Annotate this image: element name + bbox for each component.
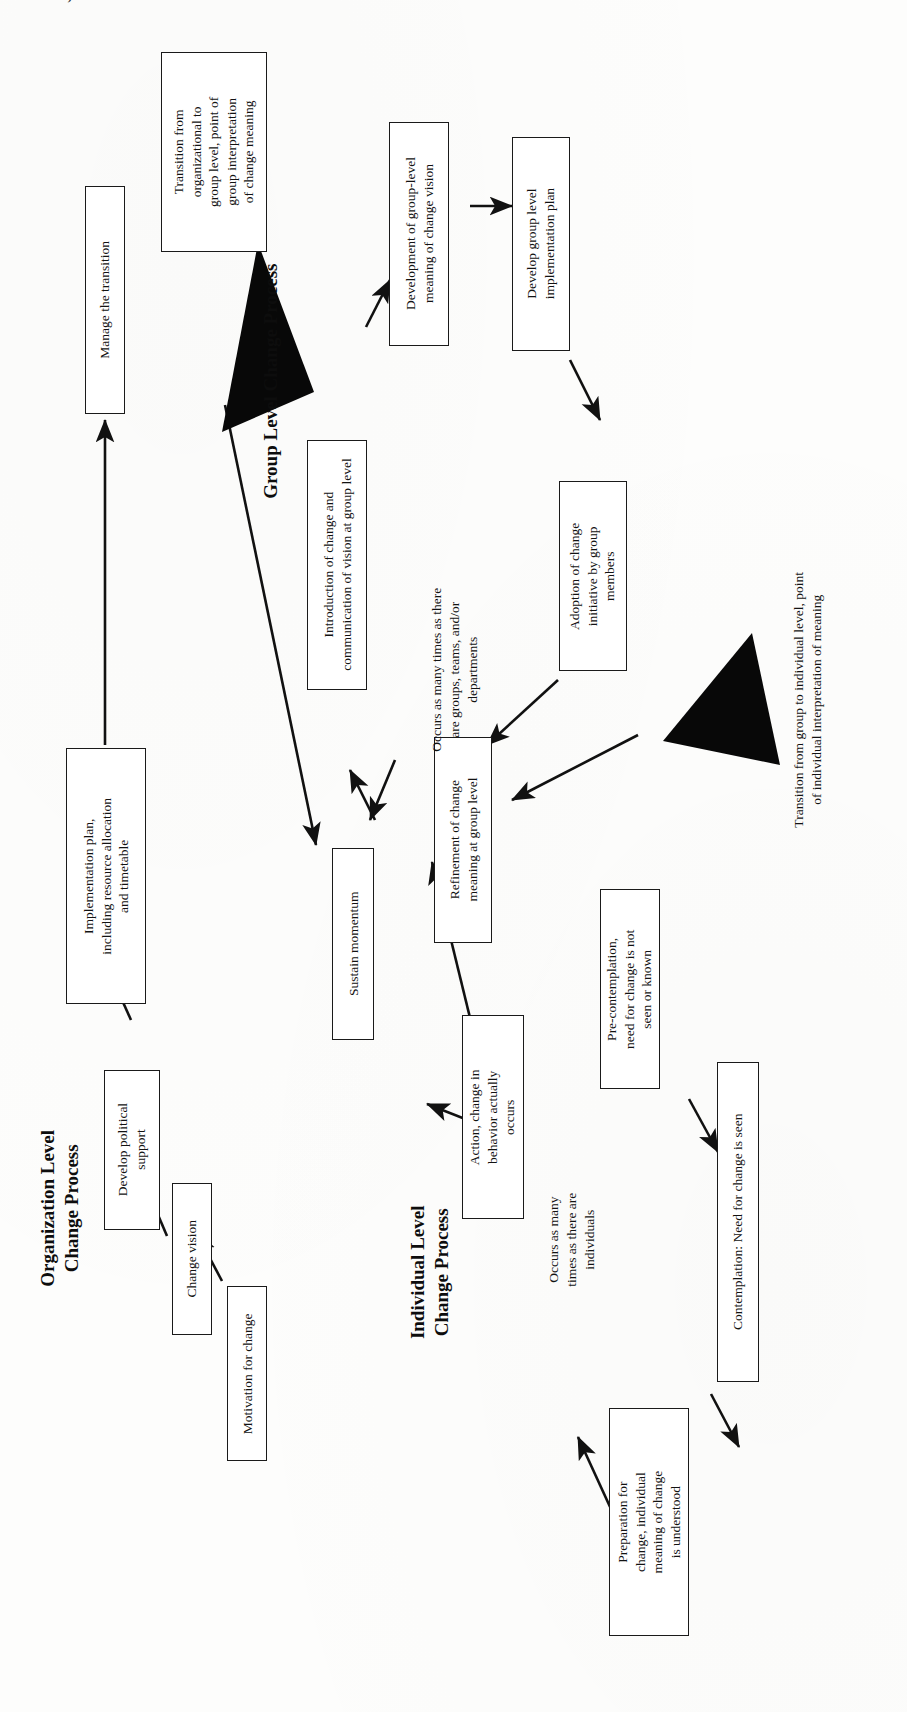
node-adoption-of-change-initiative-label: Adoption of changeinitiative by groupmem… [567,522,620,629]
note-group-occurrences: Occurs as many times as thereare groups,… [425,571,485,769]
node-manage-the-transition-label: Manage the transition [96,241,114,359]
node-transition-org-to-group-label: Transition fromorganizational togroup le… [170,97,258,207]
node-contemplation[interactable]: Contemplation: Need for change is seen [717,1062,759,1382]
triangle-group-to-individual [663,633,780,765]
node-motivation-for-change-label: Motivation for change [238,1313,256,1434]
note-individual-occurrences: Occurs as manytimes as there areindividu… [541,1142,603,1338]
node-pre-contemplation[interactable]: Pre-contemplation,need for change is not… [600,889,660,1089]
arrow-adoption-to-refinement [487,680,558,745]
node-development-group-meaning[interactable]: Development of group-levelmeaning of cha… [389,122,449,346]
node-action-change-in-behavior-label: Action, change inbehavior actuallyoccurs [467,1069,520,1165]
flowchart-figure: Organization LevelChange Process Motivat… [0,0,907,1712]
arrow-devmeaning-to-sustain [370,760,395,820]
node-change-vision[interactable]: Change vision [172,1183,212,1335]
node-develop-group-plan[interactable]: Develop group levelimplementation plan [512,137,570,351]
node-implementation-plan-label: Implementation plan,including resource a… [80,798,133,955]
node-introduction-of-change[interactable]: Introduction of change andcommunication … [307,440,367,690]
node-develop-political-support-label: Develop politicalsupport [114,1103,149,1196]
node-introduction-of-change-label: Introduction of change andcommunication … [319,459,354,672]
arrow-refinement-to-introduction [350,770,375,820]
heading-organization-level: Organization LevelChange Process [30,1108,90,1308]
arrow-contemplation-to-preparation [711,1394,739,1447]
node-implementation-plan[interactable]: Implementation plan,including resource a… [66,748,146,1004]
node-motivation-for-change[interactable]: Motivation for change [227,1286,267,1461]
note-transition-group-to-individual: Transition from group to individual leve… [786,420,830,980]
node-development-group-meaning-label: Development of group-levelmeaning of cha… [401,158,436,311]
node-sustain-momentum-label: Sustain momentum [344,892,362,997]
heading-group-level-text: Group Level Change Process [260,263,284,498]
node-develop-group-plan-label: Develop group levelimplementation plan [523,188,558,299]
node-adoption-of-change-initiative[interactable]: Adoption of changeinitiative by groupmem… [559,481,627,671]
node-contemplation-label: Contemplation: Need for change is seen [729,1114,747,1330]
node-pre-contemplation-label: Pre-contemplation,need for change is not… [604,929,657,1048]
node-manage-the-transition[interactable]: Manage the transition [85,186,125,414]
node-develop-political-support[interactable]: Develop politicalsupport [104,1070,160,1230]
node-preparation-for-change[interactable]: Preparation forchange, individualmeaning… [609,1408,689,1636]
node-preparation-for-change-label: Preparation forchange, individualmeaning… [614,1471,684,1574]
node-change-vision-label: Change vision [183,1220,201,1298]
note-individual-occurrences-text: Occurs as manytimes as there areindividu… [545,1193,598,1287]
node-sustain-momentum[interactable]: Sustain momentum [332,848,374,1040]
note-group-occurrences-text: Occurs as many times as thereare groups,… [428,588,481,752]
arrow-group-to-individual-transition [512,735,638,800]
arrow-introduction-to-devmeaning [366,280,390,327]
arrow-devplan-to-adoption [570,360,600,420]
heading-individual-level-text: Individual LevelChange Process [407,1205,456,1339]
node-refinement-of-change-meaning-label: Refinement of changemeaning at group lev… [445,778,480,902]
node-transition-org-to-group[interactable]: Transition fromorganizational togroup le… [161,52,267,252]
arrow-precontemplation-to-contemplation [689,1099,718,1152]
note-transition-group-to-individual-text: Transition from group to individual leve… [790,572,826,828]
arrow-preparation-to-action [578,1437,611,1509]
heading-individual-level: Individual LevelChange Process [403,1172,459,1372]
heading-group-level: Group Level Change Process [255,236,289,526]
node-action-change-in-behavior[interactable]: Action, change inbehavior actuallyoccurs [462,1015,524,1219]
heading-organization-level-text: Organization LevelChange Process [36,1130,85,1287]
